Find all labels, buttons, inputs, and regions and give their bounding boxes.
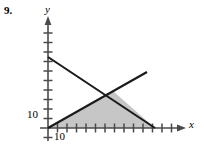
x-axis-tick-label-10: 10 — [54, 131, 65, 142]
problem-number: 9. — [4, 5, 12, 16]
y-axis-tick-label-10: 10 — [27, 109, 38, 120]
x-axis-arrow-icon — [177, 125, 186, 132]
graph-figure — [0, 0, 204, 151]
y-axis-label: y — [45, 4, 50, 15]
x-axis-label: x — [189, 119, 194, 130]
y-axis-arrow-icon — [45, 16, 52, 25]
